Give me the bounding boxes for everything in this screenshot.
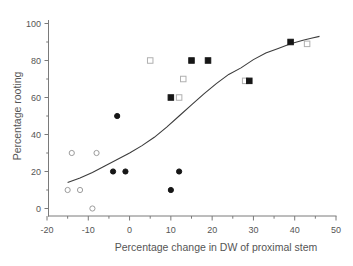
data-point-marker [304, 41, 310, 47]
data-point-marker [176, 95, 182, 101]
y-tick-label: 60 [31, 93, 41, 103]
data-series [65, 39, 310, 211]
data-point-marker [77, 187, 82, 192]
x-tick-label: 50 [331, 225, 341, 235]
data-point-marker [288, 39, 294, 45]
series-filled-circle [110, 113, 181, 192]
y-tick-label: 40 [31, 130, 41, 140]
y-tick-label: 80 [31, 56, 41, 66]
y-tick-labels: 020406080100 [26, 19, 41, 214]
data-point-marker [94, 150, 99, 155]
x-tick-label: 0 [127, 225, 132, 235]
x-tick-label: 20 [207, 225, 217, 235]
x-axis-title: Percentage change in DW of proximal stem [115, 241, 318, 253]
x-ticks [47, 216, 336, 221]
x-tick-label: 40 [290, 225, 300, 235]
y-ticks [45, 24, 49, 209]
series-open-square [147, 41, 309, 100]
y-axis: 020406080100 [26, 19, 49, 217]
data-point-marker [123, 169, 128, 174]
data-point-marker [168, 95, 174, 101]
y-tick-label: 0 [36, 204, 41, 214]
x-tick-label: -10 [82, 225, 95, 235]
data-point-marker [180, 76, 186, 82]
y-tick-label: 100 [26, 19, 41, 29]
data-point-marker [189, 58, 195, 64]
data-point-marker [247, 78, 253, 84]
x-tick-label: 10 [166, 225, 176, 235]
data-point-marker [110, 169, 115, 174]
series-filled-square [168, 39, 293, 100]
data-point-marker [205, 58, 211, 64]
data-point-marker [147, 58, 153, 64]
data-point-marker [65, 187, 70, 192]
y-tick-label: 20 [31, 167, 41, 177]
data-point-marker [115, 113, 120, 118]
x-axis: -20-1001020304050 [40, 216, 341, 235]
series-open-circle [65, 150, 99, 211]
x-tick-label: 30 [248, 225, 258, 235]
x-tick-labels: -20-1001020304050 [40, 225, 341, 235]
data-point-marker [168, 187, 173, 192]
plot-svg: 020406080100 -20-1001020304050 Percentag… [0, 0, 353, 266]
y-axis-title: Percentage rooting [11, 71, 23, 160]
data-point-marker [69, 150, 74, 155]
data-point-marker [90, 206, 95, 211]
scatter-figure: 020406080100 -20-1001020304050 Percentag… [0, 0, 353, 266]
x-tick-label: -20 [40, 225, 53, 235]
data-point-marker [177, 169, 182, 174]
